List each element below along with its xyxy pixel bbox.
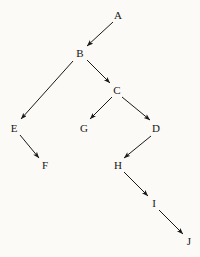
graph-node-b[interactable]: B: [76, 48, 83, 59]
graph-node-h[interactable]: H: [114, 160, 122, 171]
graph-node-g[interactable]: G: [80, 123, 88, 134]
graph-node-a[interactable]: A: [114, 10, 122, 21]
graph-node-f[interactable]: F: [42, 160, 48, 171]
graph-node-e[interactable]: E: [11, 123, 18, 134]
graph-edge: [90, 97, 112, 119]
graph-node-j[interactable]: J: [187, 236, 191, 247]
graph-edge: [87, 60, 110, 83]
graph-edge: [159, 210, 183, 234]
graph-node-d[interactable]: D: [152, 123, 160, 134]
graph-node-c[interactable]: C: [113, 85, 120, 96]
graph-node-i[interactable]: I: [152, 198, 156, 209]
graph-edges-layer: [0, 0, 200, 257]
diagram-canvas: ABCDEFGHIJ: [0, 0, 200, 257]
graph-edge: [20, 135, 39, 158]
graph-edge: [21, 61, 73, 119]
graph-edge: [124, 136, 151, 158]
graph-edge: [122, 97, 150, 120]
graph-edge: [124, 172, 148, 196]
graph-edge: [87, 22, 113, 46]
